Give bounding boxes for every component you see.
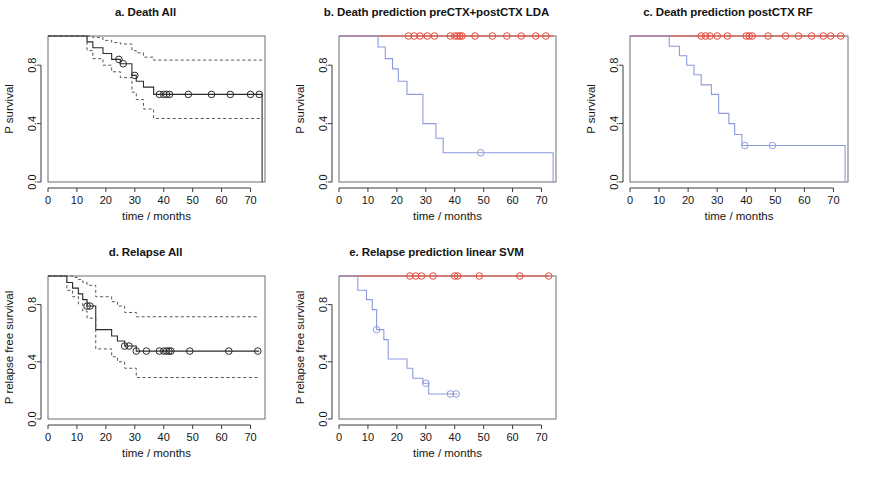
panel-a-ytick: 0.4 bbox=[26, 116, 38, 131]
panel-c-series-1 bbox=[630, 36, 845, 182]
panel-c-ylabel: P survival bbox=[585, 84, 597, 134]
figure-canvas: a. Death All0102030405060700.00.40.8time… bbox=[0, 0, 874, 477]
panel-e-xtick: 70 bbox=[535, 431, 547, 443]
panel-d-series-0 bbox=[48, 276, 259, 351]
panel-e-ytick: 0.8 bbox=[317, 297, 329, 312]
panel-d-xtick: 40 bbox=[158, 431, 170, 443]
panel-b-xtick: 0 bbox=[336, 194, 342, 206]
panel-b-series-1 bbox=[339, 36, 553, 182]
panel-d-xtick: 10 bbox=[71, 431, 83, 443]
panel-a: a. Death All0102030405060700.00.40.8time… bbox=[0, 0, 291, 240]
panel-b-ytick: 0.8 bbox=[317, 58, 329, 73]
panel-c-xtick: 30 bbox=[711, 194, 723, 206]
panel-e-xtick: 40 bbox=[449, 431, 461, 443]
panel-d-xtick: 30 bbox=[129, 431, 141, 443]
panel-b-ytick: 0.4 bbox=[317, 116, 329, 131]
panel-c-xlabel: time / months bbox=[704, 210, 773, 222]
panel-d-ytick: 0.4 bbox=[26, 354, 38, 369]
panel-a-xtick: 60 bbox=[215, 194, 227, 206]
panel-c-ytick: 0.4 bbox=[608, 116, 620, 131]
panel-e-series-1 bbox=[339, 276, 458, 394]
panel-e-xlabel: time / months bbox=[413, 447, 482, 459]
panel-b-xlabel: time / months bbox=[413, 210, 482, 222]
panel-e-xtick: 10 bbox=[362, 431, 374, 443]
panel-a-ytick: 0.8 bbox=[26, 58, 38, 73]
panel-b-xtick: 40 bbox=[449, 194, 461, 206]
panel-a-xtick: 20 bbox=[100, 194, 112, 206]
panel-b-xtick: 70 bbox=[535, 194, 547, 206]
panel-c-xtick: 40 bbox=[740, 194, 752, 206]
panel-d-series-2 bbox=[48, 276, 259, 378]
panel-c-xtick: 20 bbox=[682, 194, 694, 206]
panel-a-series-0 bbox=[48, 36, 262, 182]
panel-c-xtick: 50 bbox=[769, 194, 781, 206]
panel-c-ytick: 0.0 bbox=[608, 174, 620, 189]
panel-b-plot: 0102030405060700.00.40.8time / monthsP s… bbox=[291, 0, 582, 240]
panel-d-xtick: 60 bbox=[215, 431, 227, 443]
panel-b-xtick: 10 bbox=[362, 194, 374, 206]
panel-b-xtick: 50 bbox=[478, 194, 490, 206]
panel-b-xtick: 20 bbox=[391, 194, 403, 206]
panel-c-ytick: 0.8 bbox=[608, 58, 620, 73]
panel-d-xtick: 50 bbox=[187, 431, 199, 443]
panel-e-xtick: 20 bbox=[391, 431, 403, 443]
panel-b-ytick: 0.0 bbox=[317, 174, 329, 189]
panel-d-ytick: 0.8 bbox=[26, 297, 38, 312]
panel-b-xtick: 60 bbox=[506, 194, 518, 206]
panel-d-plot: 0102030405060700.00.40.8time / monthsP r… bbox=[0, 240, 291, 477]
panel-a-ylabel: P survival bbox=[3, 84, 15, 134]
panel-e-ytick: 0.0 bbox=[317, 411, 329, 426]
panel-a-xlabel: time / months bbox=[122, 210, 191, 222]
panel-e-xtick: 30 bbox=[420, 431, 432, 443]
panel-c: c. Death prediction postCTX RF0102030405… bbox=[582, 0, 874, 240]
panel-e-ylabel: P relapse free survival bbox=[294, 291, 306, 405]
panel-c-plot: 0102030405060700.00.40.8time / monthsP s… bbox=[582, 0, 874, 240]
panel-d-xtick: 70 bbox=[244, 431, 256, 443]
panel-b: b. Death prediction preCTX+postCTX LDA01… bbox=[291, 0, 582, 240]
panel-b-ylabel: P survival bbox=[294, 84, 306, 134]
panel-a-xtick: 30 bbox=[129, 194, 141, 206]
panel-c-xtick: 70 bbox=[827, 194, 839, 206]
panel-e-xtick: 60 bbox=[506, 431, 518, 443]
panel-e-xtick: 50 bbox=[478, 431, 490, 443]
panel-d: d. Relapse All0102030405060700.00.40.8ti… bbox=[0, 240, 291, 477]
panel-c-xtick: 0 bbox=[627, 194, 633, 206]
panel-a-series-2 bbox=[48, 36, 262, 118]
panel-c-xtick: 10 bbox=[653, 194, 665, 206]
panel-e-plot: 0102030405060700.00.40.8time / monthsP r… bbox=[291, 240, 582, 477]
panel-d-xlabel: time / months bbox=[122, 447, 191, 459]
panel-d-xtick: 0 bbox=[45, 431, 51, 443]
panel-a-xtick: 0 bbox=[45, 194, 51, 206]
panel-a-xtick: 10 bbox=[71, 194, 83, 206]
panel-e: e. Relapse prediction linear SVM01020304… bbox=[291, 240, 582, 477]
panel-a-xtick: 40 bbox=[158, 194, 170, 206]
panel-d-series-1 bbox=[48, 276, 259, 317]
panel-d-xtick: 20 bbox=[100, 431, 112, 443]
panel-a-xtick: 50 bbox=[187, 194, 199, 206]
panel-d-ytick: 0.0 bbox=[26, 411, 38, 426]
panel-d-ylabel: P relapse free survival bbox=[3, 291, 15, 405]
panel-a-ytick: 0.0 bbox=[26, 174, 38, 189]
panel-a-plot: 0102030405060700.00.40.8time / monthsP s… bbox=[0, 0, 291, 240]
panel-e-xtick: 0 bbox=[336, 431, 342, 443]
panel-a-xtick: 70 bbox=[244, 194, 256, 206]
panel-c-xtick: 60 bbox=[798, 194, 810, 206]
panel-b-xtick: 30 bbox=[420, 194, 432, 206]
panel-a-series-1 bbox=[48, 36, 262, 60]
panel-e-ytick: 0.4 bbox=[317, 354, 329, 369]
